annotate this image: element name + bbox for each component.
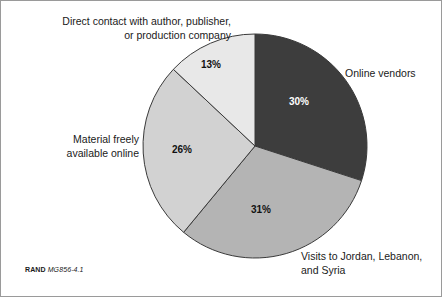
slice-label-visits: Visits to Jordan, Lebanon, and Syria: [301, 250, 442, 277]
source-organization: RAND: [25, 266, 46, 273]
slice-label-direct-contact: Direct contact with author, publisher, o…: [17, 15, 231, 42]
slice-value-material-free: 26%: [172, 144, 192, 155]
slice-label-material-free: Material freely available online: [29, 133, 139, 160]
source-note: RAND MG856-4.1: [25, 266, 84, 273]
slice-label-online-vendors: Online vendors: [345, 67, 441, 81]
slice-value-online-vendors: 30%: [289, 96, 309, 107]
source-identifier: MG856-4.1: [48, 266, 84, 273]
slice-value-visits: 31%: [251, 204, 271, 215]
slice-value-direct-contact: 13%: [201, 59, 221, 70]
pie-chart-figure: Direct contact with author, publisher, o…: [0, 0, 442, 297]
